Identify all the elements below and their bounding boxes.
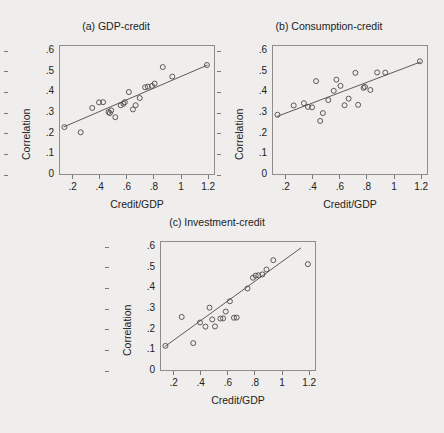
x-tick-mark (126, 175, 127, 179)
x-tick-mark (181, 175, 182, 179)
data-point (203, 324, 208, 329)
x-tick-label: .8 (352, 181, 382, 192)
data-point (113, 115, 118, 120)
x-tick-label: .6 (112, 181, 142, 192)
data-point (191, 341, 196, 346)
data-point (417, 59, 422, 64)
x-tick-mark (312, 175, 313, 179)
y-tick-label: .6 (243, 44, 267, 55)
y-tick-label: .2 (30, 127, 54, 138)
y-tick-mark (217, 133, 221, 134)
y-tick-label: 0 (131, 364, 155, 375)
panel-consumption-credit: (b) Consumption-credit Correlation Credi… (221, 20, 437, 220)
x-tick-mark (366, 175, 367, 179)
x-tick-label: 1.2 (294, 377, 324, 388)
data-point (271, 258, 276, 263)
x-tick-label: .4 (85, 181, 115, 192)
x-tick-mark (285, 175, 286, 179)
panel-b-data-layer (272, 45, 428, 175)
x-tick-mark (99, 175, 100, 179)
y-tick-label: .4 (131, 281, 155, 292)
y-tick-mark (105, 371, 109, 372)
figure-container: (a) GDP-credit Correlation Credit/GDP 0.… (0, 0, 444, 433)
y-tick-label: .1 (30, 147, 54, 158)
y-tick-label: .5 (131, 261, 155, 272)
y-tick-label: .3 (30, 106, 54, 117)
data-point (223, 309, 228, 314)
y-tick-mark (4, 113, 8, 114)
y-tick-mark (4, 133, 8, 134)
data-point (383, 70, 388, 75)
y-tick-mark (105, 267, 109, 268)
x-tick-label: .8 (139, 181, 169, 192)
data-point (264, 267, 269, 272)
panel-a-title: (a) GDP-credit (8, 20, 224, 32)
y-tick-mark (217, 51, 221, 52)
y-tick-mark (4, 51, 8, 52)
x-tick-mark (394, 175, 395, 179)
x-tick-mark (421, 175, 422, 179)
x-tick-label: .2 (159, 377, 189, 388)
data-point (170, 74, 175, 79)
y-tick-mark (105, 309, 109, 310)
y-tick-mark (217, 71, 221, 72)
y-tick-label: .2 (243, 127, 267, 138)
y-tick-mark (4, 175, 8, 176)
x-tick-label: .6 (213, 377, 243, 388)
data-point (338, 83, 343, 88)
x-tick-label: 1 (379, 181, 409, 192)
x-tick-label: .8 (240, 377, 270, 388)
x-tick-mark (227, 371, 228, 375)
x-tick-mark (173, 371, 174, 375)
data-point (291, 103, 296, 108)
y-tick-mark (217, 175, 221, 176)
data-point (305, 262, 310, 267)
x-tick-label: .4 (298, 181, 328, 192)
panel-c-title: (c) Investment-credit (109, 216, 325, 228)
data-point (133, 103, 138, 108)
y-tick-mark (4, 71, 8, 72)
data-point (160, 65, 165, 70)
y-tick-label: .1 (243, 147, 267, 158)
x-tick-label: 1.2 (193, 181, 223, 192)
data-point (368, 87, 373, 92)
x-tick-mark (254, 371, 255, 375)
panel-b-x-axis-label: Credit/GDP (272, 198, 428, 210)
data-point (375, 70, 380, 75)
data-point (362, 84, 367, 89)
y-tick-label: .1 (131, 343, 155, 354)
x-tick-mark (72, 175, 73, 179)
panel-gdp-credit: (a) GDP-credit Correlation Credit/GDP 0.… (8, 20, 224, 220)
data-point (62, 125, 67, 130)
data-point (353, 70, 358, 75)
panel-a-plot-area (59, 45, 215, 175)
y-tick-mark (105, 329, 109, 330)
y-tick-label: 0 (243, 168, 267, 179)
y-tick-label: .3 (243, 106, 267, 117)
y-tick-mark (4, 92, 8, 93)
y-tick-label: .4 (243, 85, 267, 96)
y-tick-mark (217, 113, 221, 114)
data-point (334, 77, 339, 82)
panel-c-plot-area (160, 241, 316, 371)
x-tick-mark (200, 371, 201, 375)
panel-a-x-axis-label: Credit/GDP (59, 198, 215, 210)
x-tick-label: 1.2 (406, 181, 436, 192)
data-point (78, 130, 83, 135)
data-point (137, 96, 142, 101)
y-tick-mark (105, 247, 109, 248)
panel-c-x-axis-label: Credit/GDP (160, 394, 316, 406)
y-tick-mark (105, 350, 109, 351)
y-tick-label: .3 (131, 302, 155, 313)
y-tick-label: .4 (30, 85, 54, 96)
regression-line (277, 62, 421, 117)
x-tick-mark (208, 175, 209, 179)
y-tick-mark (4, 154, 8, 155)
data-point (318, 118, 323, 123)
x-tick-label: .2 (58, 181, 88, 192)
panel-b-plot-area (272, 45, 428, 175)
x-tick-label: .2 (271, 181, 301, 192)
data-point (179, 314, 184, 319)
regression-line (64, 65, 208, 127)
data-point (342, 103, 347, 108)
